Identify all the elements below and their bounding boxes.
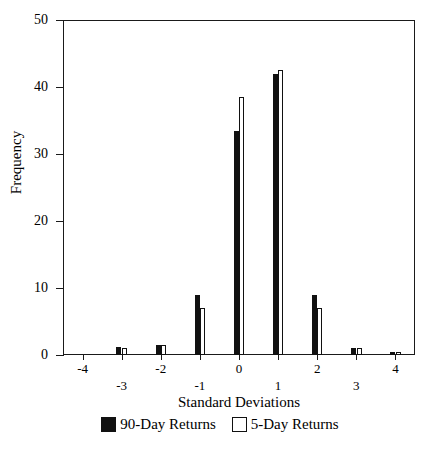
- chart-figure: Frequency 01020304050 -4-3-2-101234 Stan…: [0, 0, 440, 450]
- y-axis-tick-label: 10: [22, 281, 48, 295]
- y-axis-tick-label: 30: [22, 147, 48, 161]
- y-axis-tick: [56, 355, 64, 356]
- plot-area: [63, 20, 415, 355]
- y-axis-tick: [56, 154, 64, 155]
- x-axis-tick-label: 1: [263, 379, 293, 392]
- x-axis-tick: [278, 355, 279, 360]
- x-axis-tick-label: -3: [107, 379, 137, 392]
- x-axis-tick: [200, 355, 201, 360]
- x-axis-tick-label: -1: [185, 379, 215, 392]
- legend-label: 5-Day Returns: [251, 417, 339, 432]
- x-axis-tick-label: -2: [146, 362, 176, 375]
- legend-entry: 5-Day Returns: [232, 417, 339, 432]
- legend-outlined-square-icon: [232, 417, 247, 432]
- legend-entry: 90-Day Returns: [101, 417, 215, 432]
- y-axis-tick-label: 40: [22, 80, 48, 94]
- x-axis-title: Standard Deviations: [63, 394, 415, 411]
- legend-filled-square-icon: [101, 417, 116, 432]
- y-axis-tick: [56, 20, 64, 21]
- x-axis-tick-label: 4: [380, 362, 410, 375]
- x-axis-tick: [317, 355, 318, 360]
- y-axis-tick: [56, 87, 64, 88]
- y-axis-tick-label: 0: [22, 348, 48, 362]
- x-axis-tick-label: 0: [224, 362, 254, 375]
- x-axis-tick: [83, 355, 84, 360]
- legend-label: 90-Day Returns: [120, 417, 215, 432]
- y-axis-tick-label: 50: [22, 13, 48, 27]
- y-axis-tick-label: 20: [22, 214, 48, 228]
- x-axis-tick-label: -4: [68, 362, 98, 375]
- x-axis-tick: [356, 355, 357, 360]
- x-axis-tick-label: 2: [302, 362, 332, 375]
- x-axis-tick: [395, 355, 396, 360]
- y-axis-title: Frequency: [8, 103, 25, 223]
- x-axis-tick: [239, 355, 240, 360]
- x-axis-tick: [161, 355, 162, 360]
- y-axis-tick: [56, 221, 64, 222]
- x-axis-tick-label: 3: [341, 379, 371, 392]
- chart-legend: 90-Day Returns5-Day Returns: [0, 417, 440, 432]
- x-axis-tick: [122, 355, 123, 360]
- y-axis-tick: [56, 288, 64, 289]
